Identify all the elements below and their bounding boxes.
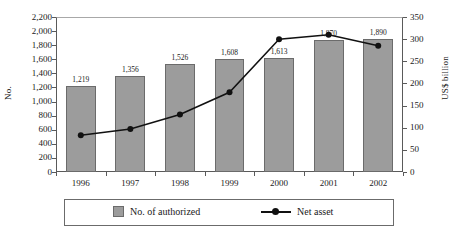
chart-container: No. US$ billion 02004006008001,0001,2001…	[0, 0, 458, 241]
y-axis-right-tick-label: 150	[410, 101, 424, 110]
line-path	[81, 35, 378, 136]
x-axis-tickmark	[353, 172, 354, 176]
line-marker	[177, 111, 183, 117]
y-axis-left-tick-label: 200	[0, 153, 52, 162]
y-axis-left-tick-label: 2,000	[0, 27, 52, 36]
x-axis-tick-label: 2001	[304, 178, 354, 188]
y-axis-right-tick-label: 0	[410, 168, 415, 177]
x-axis-tickmark	[304, 172, 305, 176]
line-marker	[375, 43, 381, 49]
y-axis-right-tickmark	[403, 83, 407, 84]
y-axis-right-tickmark	[403, 150, 407, 151]
legend-item-line: Net asset	[261, 206, 333, 217]
x-axis-tick-label: 2000	[254, 178, 304, 188]
y-axis-right-tickmark	[403, 128, 407, 129]
x-axis-tickmark	[106, 172, 107, 176]
line-marker	[276, 36, 282, 42]
x-axis-tickmark	[56, 172, 57, 176]
x-axis-tick-label: 1999	[205, 178, 255, 188]
x-axis-tickmark	[403, 172, 404, 176]
y-axis-left-tick-label: 1,600	[0, 55, 52, 64]
y-axis-right-tick-label: 300	[410, 35, 424, 44]
y-axis-right-tick-label: 250	[410, 57, 424, 66]
y-axis-right-tickmark	[403, 17, 407, 18]
x-axis-tick-label: 1996	[56, 178, 106, 188]
y-axis-right-tick-label: 50	[410, 145, 419, 154]
line-series	[56, 17, 403, 172]
y-axis-right-tick-label: 350	[410, 13, 424, 22]
legend-label-line: Net asset	[297, 206, 333, 217]
y-axis-right-tick-label: 200	[410, 79, 424, 88]
x-axis-tickmark	[254, 172, 255, 176]
line-marker	[127, 126, 133, 132]
y-axis-right-title: US$ billion	[440, 86, 450, 100]
y-axis-right-tickmark	[403, 61, 407, 62]
legend-swatch-icon	[113, 206, 124, 217]
x-axis-tickmark	[155, 172, 156, 176]
line-marker	[326, 32, 332, 38]
y-axis-left-tick-label: 1,400	[0, 69, 52, 78]
y-axis-left-tick-label: 600	[0, 125, 52, 134]
y-axis-left-tick-label: 0	[0, 168, 52, 177]
y-axis-right-tickmark	[403, 106, 407, 107]
y-axis-left-tick-label: 1,000	[0, 97, 52, 106]
x-axis-tick-label: 1997	[105, 178, 155, 188]
y-axis-left-tick-label: 800	[0, 111, 52, 120]
legend-line-icon	[261, 206, 291, 217]
chart-legend: No. of authorized Net asset	[64, 199, 394, 226]
y-axis-left-tick-label: 400	[0, 139, 52, 148]
line-marker	[227, 89, 233, 95]
y-axis-right-tick-label: 100	[410, 123, 424, 132]
y-axis-left-tick-label: 1,800	[0, 41, 52, 50]
x-axis-tickmark	[205, 172, 206, 176]
legend-label-bar: No. of authorized	[130, 206, 200, 217]
y-axis-left-tick-label: 2,200	[0, 13, 52, 22]
legend-item-bar: No. of authorized	[113, 206, 200, 217]
y-axis-left-tick-label: 1,200	[0, 83, 52, 92]
line-marker	[78, 132, 84, 138]
x-axis-tick-label: 1998	[155, 178, 205, 188]
x-axis-tick-label: 2002	[353, 178, 403, 188]
y-axis-right-tickmark	[403, 39, 407, 40]
